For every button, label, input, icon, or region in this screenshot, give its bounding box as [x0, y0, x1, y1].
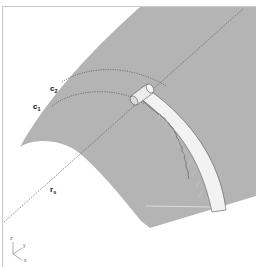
y-axis	[13, 248, 22, 254]
axis-triad	[13, 242, 22, 260]
label-rs: rs	[50, 186, 56, 196]
axis-label-y: y	[23, 243, 26, 248]
label-c2: c2	[50, 85, 58, 95]
axis-label-x: x	[24, 258, 27, 263]
label-c1: c1	[33, 103, 41, 113]
x-axis	[13, 254, 22, 260]
axis-label-z: z	[10, 236, 13, 241]
surface-diagram	[0, 0, 256, 267]
